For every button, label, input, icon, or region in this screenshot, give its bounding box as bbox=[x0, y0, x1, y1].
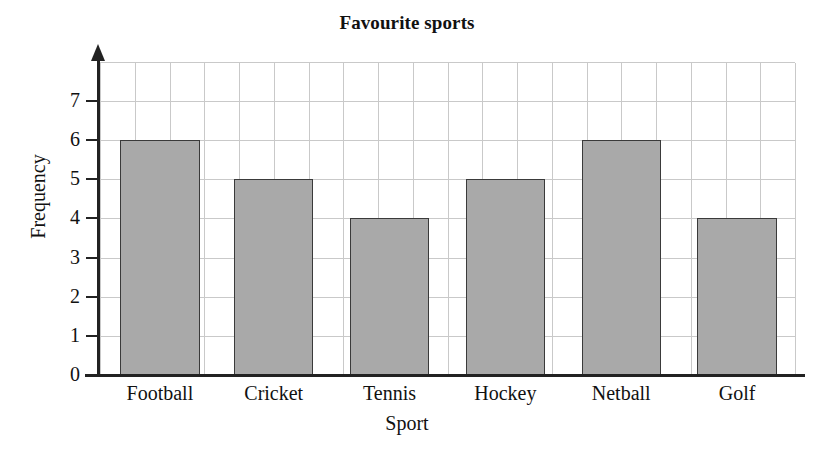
y-tick-mark bbox=[86, 257, 98, 259]
x-tick-label: Cricket bbox=[214, 381, 333, 405]
y-tick-label-wrap: 0 bbox=[44, 364, 80, 384]
y-tick-label-wrap: 2 bbox=[44, 286, 80, 306]
x-tick-label: Hockey bbox=[446, 381, 565, 405]
y-tick-label-wrap: 7 bbox=[44, 90, 80, 110]
y-tick-mark bbox=[86, 374, 98, 376]
y-tick-mark bbox=[86, 296, 98, 298]
y-tick-mark bbox=[86, 217, 98, 219]
y-tick-mark bbox=[86, 100, 98, 102]
y-tick-mark bbox=[86, 335, 98, 337]
y-tick-label: 5 bbox=[56, 168, 80, 188]
y-tick-label: 6 bbox=[56, 129, 80, 149]
y-axis-title: Frequency bbox=[27, 117, 50, 277]
x-tick-label: Tennis bbox=[330, 381, 449, 405]
x-tick-label: Golf bbox=[677, 381, 796, 405]
y-tick-label: 0 bbox=[56, 364, 80, 384]
x-tick-label: Netball bbox=[562, 381, 681, 405]
y-tick-label: 4 bbox=[56, 207, 80, 227]
y-tick-label: 1 bbox=[56, 325, 80, 345]
y-tick-mark bbox=[86, 178, 98, 180]
x-tick-label: Football bbox=[100, 381, 219, 405]
y-tick-mark bbox=[86, 139, 98, 141]
x-axis-title: Sport bbox=[0, 412, 814, 435]
y-tick-label: 3 bbox=[56, 247, 80, 267]
y-axis-arrow-icon bbox=[91, 44, 105, 61]
bar-chart: Favourite sports 01234567 FootballCricke… bbox=[0, 0, 814, 465]
y-tick-label: 2 bbox=[56, 286, 80, 306]
y-tick-label: 7 bbox=[56, 90, 80, 110]
x-axis-line bbox=[85, 374, 805, 377]
y-tick-label-wrap: 1 bbox=[44, 325, 80, 345]
